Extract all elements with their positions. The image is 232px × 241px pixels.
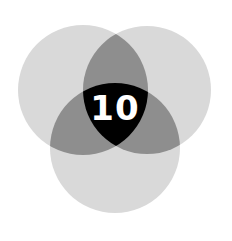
center-label: 10 (91, 88, 139, 128)
